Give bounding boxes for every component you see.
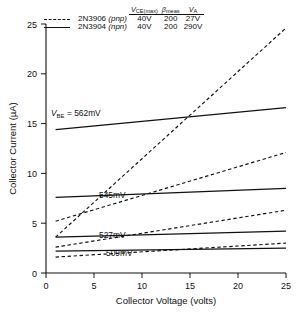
curve-4	[56, 210, 286, 247]
x-tick-label-0: 0	[43, 281, 48, 291]
x-tick-label-5: 5	[91, 281, 96, 291]
annotation-545mv: 545mV	[99, 190, 126, 200]
annotation-562mv: VBE = 562mV	[51, 108, 101, 119]
axis-lines	[46, 24, 286, 273]
x-tick-label-25: 25	[281, 281, 291, 291]
x-tick-label-20: 20	[233, 281, 243, 291]
y-axis-ticks	[41, 24, 46, 273]
chart-plot: 0 5 10 15 20 25 0 5 10 15 20 25 Collecto…	[0, 0, 299, 315]
y-tick-label-0: 0	[32, 269, 37, 279]
curve-3	[56, 188, 286, 197]
x-tick-label-10: 10	[137, 281, 147, 291]
x-tick-label-15: 15	[185, 281, 195, 291]
annotation-527mv: 527mV	[99, 230, 126, 240]
y-tick-label-25: 25	[27, 20, 37, 30]
y-tick-label-5: 5	[32, 219, 37, 229]
annotation-509mv: 509mV	[106, 248, 133, 258]
y-axis-title: Collector Current (µA)	[7, 102, 18, 195]
curve-5	[56, 231, 286, 237]
y-tick-label-10: 10	[27, 169, 37, 179]
y-tick-label-20: 20	[27, 69, 37, 79]
curve-2	[56, 152, 286, 221]
curve-0	[56, 28, 286, 237]
x-axis-title: Collector Voltage (volts)	[116, 295, 216, 306]
figure-container: VCE(max) βmeas VA 2N3906 (pnp) 40V 200 2…	[0, 0, 299, 315]
y-tick-label-15: 15	[27, 119, 37, 129]
x-tick-labels: 0 5 10 15 20 25	[43, 281, 291, 291]
x-axis-ticks	[46, 273, 286, 278]
y-tick-labels: 0 5 10 15 20 25	[27, 20, 37, 279]
data-curves	[56, 28, 286, 257]
